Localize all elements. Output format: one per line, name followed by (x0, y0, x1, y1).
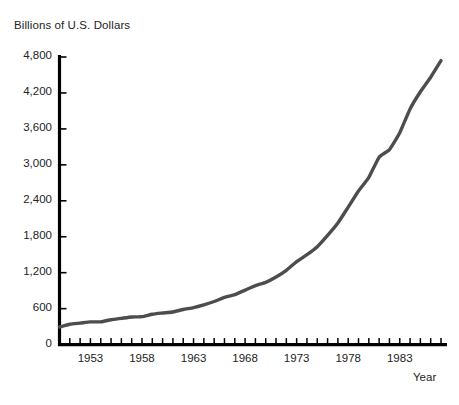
y-axis-tick-label: 3,000 (8, 157, 52, 169)
y-axis-tick-label: 3,600 (8, 121, 52, 133)
y-axis-tick-label: 1,800 (8, 229, 52, 241)
data-series-line (60, 61, 442, 327)
x-axis-tick-label: 1968 (220, 352, 270, 364)
y-axis-tick-label: 0 (8, 337, 52, 349)
y-axis-tick-label: 2,400 (8, 193, 52, 205)
x-axis-tick-label: 1983 (375, 352, 425, 364)
x-axis-title: Year (413, 371, 436, 383)
x-axis-tick-label: 1978 (323, 352, 373, 364)
x-axis-tick-label: 1958 (117, 352, 167, 364)
y-axis-tick-label: 1,200 (8, 265, 52, 277)
plot-area (0, 0, 459, 405)
line-chart: Billions of U.S. Dollars 06001,2001,8002… (0, 0, 459, 405)
x-axis-tick-label: 1973 (272, 352, 322, 364)
x-axis-tick-label: 1963 (169, 352, 219, 364)
y-axis-tick-label: 4,200 (8, 85, 52, 97)
y-axis-tick-label: 4,800 (8, 49, 52, 61)
x-axis-tick-label: 1953 (65, 352, 115, 364)
y-axis-tick-label: 600 (8, 301, 52, 313)
